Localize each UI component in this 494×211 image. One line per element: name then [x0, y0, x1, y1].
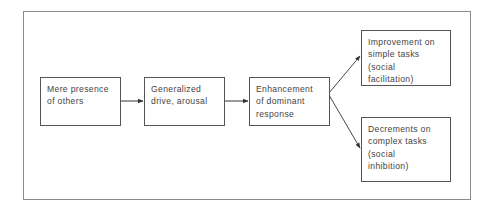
- node-text: of others: [47, 95, 114, 107]
- node-improvement: Improvement on simple tasks (social faci…: [361, 30, 451, 86]
- node-mere-presence: Mere presence of others: [40, 77, 121, 126]
- node-text: complex tasks: [368, 135, 444, 147]
- node-text: facilitation): [368, 73, 444, 85]
- node-text: simple tasks: [368, 48, 444, 60]
- node-decrements: Decrements on complex tasks (social inhi…: [361, 117, 451, 182]
- node-text: (social: [368, 61, 444, 73]
- arrow-enhancement-to-improvement: [329, 56, 360, 93]
- node-generalized-drive: Generalized drive, arousal: [144, 77, 225, 126]
- node-enhancement: Enhancement of dominant response: [249, 77, 330, 126]
- node-text: Generalized: [151, 83, 218, 95]
- node-text: Improvement on: [368, 36, 444, 48]
- node-text: inhibition): [368, 160, 444, 172]
- arrow-enhancement-to-decrements: [329, 95, 360, 148]
- node-text: of dominant: [256, 95, 323, 107]
- node-text: (social: [368, 148, 444, 160]
- node-text: response: [256, 108, 323, 120]
- node-text: Decrements on: [368, 123, 444, 135]
- node-text: Mere presence: [47, 83, 114, 95]
- node-text: Enhancement: [256, 83, 323, 95]
- node-text: drive, arousal: [151, 95, 218, 107]
